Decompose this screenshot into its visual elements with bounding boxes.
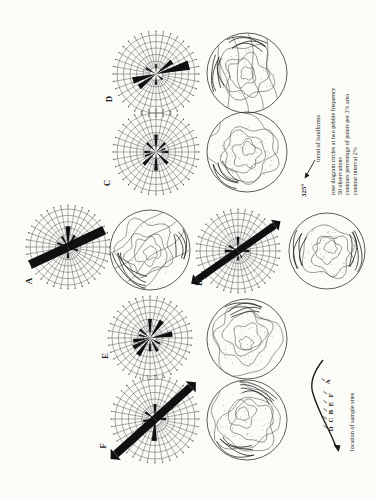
rose-diagram-a xyxy=(22,201,114,293)
rose-diagram-c xyxy=(109,105,203,199)
inset-site-letter: F xyxy=(327,393,335,397)
legend-line-contour-density: contours percentage of points per 3% are… xyxy=(344,29,351,195)
contour-diagram-d xyxy=(204,30,290,116)
legend-line-rose-scale: rose diagram circles at two pebble frequ… xyxy=(330,29,337,195)
rose-diagram-b xyxy=(192,205,284,297)
legend-lines: rose diagram circles at two pebble frequ… xyxy=(330,29,359,195)
inset-site-letter: C xyxy=(327,417,335,422)
inset-site-letter: E xyxy=(327,402,335,407)
inset-caption: location of sample sites xyxy=(348,393,355,451)
figure-page: D C A B E F 325° trend of landforms rose… xyxy=(0,0,375,499)
trend-azimuth-value: 325° xyxy=(300,184,308,197)
contour-diagram-b xyxy=(286,210,368,292)
legend-line-contour-interval: contour interval 2% xyxy=(352,29,359,195)
inset-site-letter: D xyxy=(327,426,335,431)
contour-diagram-a xyxy=(107,207,193,293)
inset-site-letter: A xyxy=(324,379,332,384)
location-inset: D C B E F A location of sample sites xyxy=(303,336,361,454)
legend-block: 325° trend of landforms rose diagram cir… xyxy=(300,28,362,198)
contour-diagram-e xyxy=(204,296,290,382)
rose-diagram-f xyxy=(107,371,203,467)
trend-label: trend of landforms xyxy=(314,115,321,162)
legend-line-observations: 50 observations xyxy=(337,29,344,195)
landform-profile-curve xyxy=(303,336,345,454)
contour-diagram-c xyxy=(204,109,290,195)
contour-diagram-f xyxy=(204,377,290,463)
inset-site-letter: B xyxy=(327,410,335,415)
profile-arrow-icon xyxy=(334,445,341,453)
